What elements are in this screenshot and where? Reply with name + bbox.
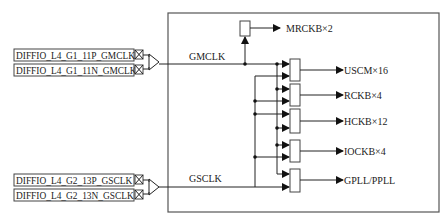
gsclk-net: GSCLK [159,76,289,187]
mux-rckb: RCKB×4 [253,84,382,106]
mux-block-rckb [290,84,300,106]
mux-block-uscm [290,59,300,81]
mux-uscm: USCM×16 [255,59,388,81]
gsclk-pin-group: DIFFIO_L4_G2_13P_GSCLK DIFFIO_L4_G2_13N_… [14,174,159,201]
junction-dot [275,62,279,66]
pin-label-gmclk-n: DIFFIO_L4_G1_11N_GMCLK [16,66,137,76]
pin-label-gsclk-p: DIFFIO_L4_G2_13P_GSCLK [16,176,132,186]
output-label-gpll: GPLL/PPLL [344,175,395,186]
clock-network-diagram: DIFFIO_L4_G1_11P_GMCLK DIFFIO_L4_G1_11N_… [0,0,448,221]
buffer-input-wires [143,55,149,69]
mrckb-buffer-block [240,21,250,36]
output-label-rckb: RCKB×4 [344,90,382,101]
buffer-input-wires [143,180,149,194]
pin-label-gsclk-n: DIFFIO_L4_G2_13N_GSCLK [16,191,134,201]
output-label-hckb: HCKB×12 [344,116,387,127]
pad-x-icon [135,50,143,74]
mux-hckb: HCKB×12 [253,109,387,133]
mux-gpll: GPLL/PPLL [277,169,395,192]
pin-label-gmclk-p: DIFFIO_L4_G1_11P_GMCLK [16,51,135,61]
gmclk-net: GMCLK [159,37,289,174]
diff-buffer-icon [149,54,159,70]
mux-block-iockb [290,140,300,162]
gmclk-label: GMCLK [189,51,226,62]
gsclk-label: GSCLK [189,173,223,184]
pad-x-icon [135,175,143,199]
diff-buffer-icon [149,179,159,195]
mux-block-hckb [290,109,300,133]
mux-block-gpll [290,169,300,192]
output-label-iockb: IOCKB×4 [344,146,386,157]
output-label-uscm: USCM×16 [344,65,388,76]
output-label-mrckb: MRCKB×2 [286,23,333,34]
mux-iockb: IOCKB×4 [253,140,386,162]
gmclk-pin-group: DIFFIO_L4_G1_11P_GMCLK DIFFIO_L4_G1_11N_… [14,49,159,76]
junction-dot [243,62,247,66]
